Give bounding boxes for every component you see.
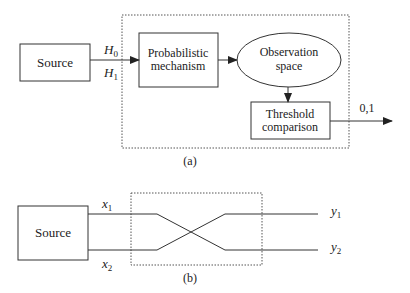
source-label-b: Source: [35, 225, 71, 240]
caption-b: (b): [183, 271, 197, 285]
caption-a: (a): [183, 154, 196, 168]
diagram-canvas: Source H0 H1 Probabilistic mechanism Obs…: [0, 0, 410, 293]
prob-mechanism-line1: Probabilistic: [148, 46, 209, 60]
diagram-b: Source x1 x2 y1 y2 (b): [18, 193, 341, 285]
decision-output-label: 0,1: [360, 101, 375, 115]
output-y2-label: y2: [329, 239, 341, 256]
diagram-a: Source H0 H1 Probabilistic mechanism Obs…: [20, 15, 392, 168]
threshold-line1: Threshold: [266, 107, 315, 121]
hypothesis-h1-label: H1: [103, 65, 118, 82]
output-y1-label: y1: [329, 203, 341, 220]
prob-mechanism-line2: mechanism: [151, 59, 206, 73]
hypothesis-h0-label: H0: [103, 42, 118, 59]
input-x2-label: x2: [101, 256, 112, 273]
source-label-a: Source: [37, 55, 73, 70]
input-x1-label: x1: [101, 196, 112, 213]
observation-line1: Observation: [260, 45, 319, 59]
observation-line2: space: [276, 59, 303, 73]
threshold-line2: comparison: [262, 120, 318, 134]
